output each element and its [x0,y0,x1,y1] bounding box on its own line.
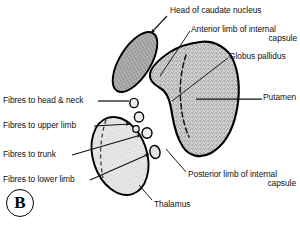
leader-posterior-limb [166,149,186,172]
fibre-bundle-head-neck [130,98,138,107]
label-thalamus: Thalamus [154,200,190,210]
panel-identifier-b: B [6,189,34,217]
label-head-of-caudate-nucleus: Head of caudate nucleus [170,6,262,16]
label-fibres-to-upper-limb: Fibres to upper limb [3,121,76,131]
leader-thalamus [139,185,152,200]
fibre-bundle-trunk [142,128,152,138]
leader-head-of-caudate [151,16,167,33]
fibre-bundle-lower-limb [149,144,162,159]
label-globus-pallidus: Globus pallidus [229,52,286,62]
figure-canvas: Head of caudate nucleus Anterior limb of… [0,0,300,227]
fibre-bundle-upper-limb-a [134,112,143,122]
fibre-bundle-upper-limb-b [133,126,139,133]
label-putamen: Putamen [263,93,296,103]
label-fibres-to-lower-limb: Fibres to lower limb [3,175,75,185]
label-anterior-limb-line2: capsule [191,34,297,44]
label-fibres-to-head-and-neck: Fibres to head & neck [3,96,83,106]
thalamus-shape [82,110,158,203]
label-fibres-to-trunk: Fibres to trunk [3,150,56,160]
label-posterior-limb-line2: capsule [188,179,296,189]
